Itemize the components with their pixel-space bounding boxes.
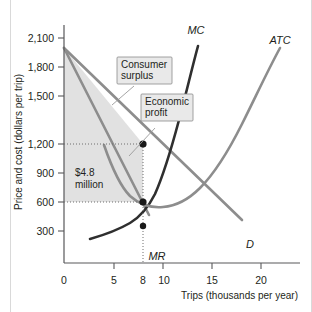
x-tick-label-20: 20	[255, 274, 267, 286]
y-tick-label-300: 300	[36, 225, 54, 237]
mr-mc-intersection-marker	[140, 223, 146, 229]
atc-curve-label: ATC	[268, 34, 290, 46]
economic-profit-label-line2: profit	[145, 107, 167, 118]
monopoly-price-cost-chart: 2,100 1,800 1,500 1,200 900 600 300 0 5 …	[0, 0, 312, 312]
x-tick-label-5: 5	[111, 274, 117, 286]
cost-point-marker	[139, 198, 146, 205]
x-tick-label-10: 10	[158, 274, 170, 286]
consumer-surplus-label-line2: surplus	[121, 70, 153, 81]
y-tick-label-900: 900	[36, 167, 54, 179]
y-tick-label-1200: 1,200	[28, 138, 54, 150]
y-tick-label-1800: 1,800	[28, 61, 54, 73]
y-tick-label-1500: 1,500	[28, 90, 54, 102]
mc-curve-label: MC	[187, 24, 204, 36]
chart-background	[0, 0, 312, 312]
d-curve-label: D	[246, 238, 254, 250]
mr-curve-label: MR	[148, 250, 165, 262]
y-tick-label-600: 600	[36, 196, 54, 208]
y-axis-title: Price and cost (dollars per trip)	[13, 74, 24, 210]
consumer-surplus-label-line1: Consumer	[121, 59, 168, 70]
profit-amount-line2: million	[75, 179, 103, 190]
economics-figure: 2,100 1,800 1,500 1,200 900 600 300 0 5 …	[0, 0, 312, 312]
x-tick-label-0: 0	[61, 274, 67, 286]
x-tick-label-15: 15	[206, 274, 218, 286]
y-tick-label-2100: 2,100	[28, 32, 54, 44]
x-tick-label-8: 8	[140, 274, 146, 286]
economic-profit-label-line1: Economic	[145, 96, 189, 107]
x-axis-title: Trips (thousands per year)	[181, 290, 298, 301]
profit-amount-line1: $4.8	[75, 167, 95, 178]
